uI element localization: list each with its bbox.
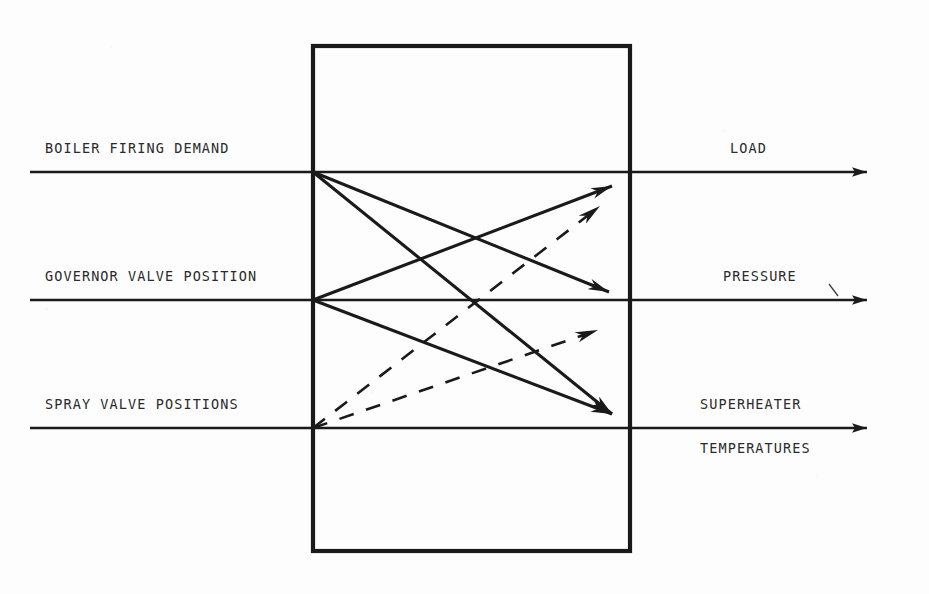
input-label-governor-valve-position: GOVERNOR VALVE POSITION — [45, 268, 257, 284]
coupling-spray-to-pressure-dashed — [313, 330, 598, 428]
input-label-boiler-firing-demand: BOILER FIRING DEMAND — [45, 140, 230, 156]
coupling-governor-to-superheater — [313, 300, 612, 414]
input-label-spray-valve-positions: SPRAY VALVE POSITIONS — [45, 396, 239, 412]
stray-mark-pressure — [829, 284, 838, 296]
output-label-load: LOAD — [730, 140, 767, 156]
output-label-temperatures: TEMPERATURES — [700, 440, 811, 456]
block-diagram-svg — [0, 0, 929, 594]
coupling-governor-to-load — [313, 186, 612, 300]
output-label-pressure: PRESSURE — [723, 268, 797, 284]
coupling-firing-to-superheater — [313, 172, 612, 414]
diagram-page: BOILER FIRING DEMAND GOVERNOR VALVE POSI… — [0, 0, 929, 594]
output-label-superheater: SUPERHEATER — [700, 396, 802, 412]
